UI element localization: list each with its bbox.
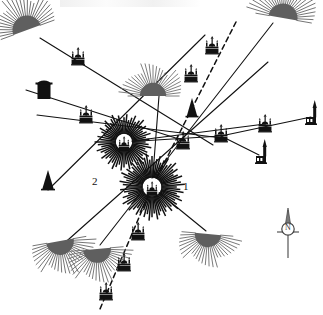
church-tower-site — [305, 100, 317, 125]
dashed-alignment — [152, 22, 236, 187]
mosque-site — [258, 114, 272, 132]
crescent-moon-nw — [0, 64, 21, 100]
mosque-site — [131, 222, 145, 240]
half-sun-se — [177, 232, 242, 270]
half-sun-ne — [246, 0, 320, 23]
svg-text:N: N — [285, 223, 291, 232]
church-tower-site — [255, 139, 267, 164]
site-alignment-map: N — [0, 0, 323, 315]
north-arrow: N — [277, 208, 299, 258]
mosque-site — [205, 36, 219, 54]
label-1: 1 — [183, 181, 189, 192]
half-sun-nw — [0, 0, 56, 43]
mosque-site — [214, 124, 228, 142]
drum-markers-layer — [36, 81, 53, 99]
dark-drum-left — [36, 81, 53, 99]
mosque-site — [117, 253, 131, 271]
sight-lines-layer — [26, 22, 311, 309]
mosque-site — [71, 47, 85, 65]
dark-cone-left — [41, 170, 55, 190]
compass-rose: N — [277, 208, 299, 258]
sight-line — [48, 35, 205, 190]
mosque-site — [184, 64, 198, 82]
crescent-moon-ne — [232, 3, 256, 36]
sight-line — [221, 117, 311, 136]
label-2: 2 — [92, 176, 98, 187]
